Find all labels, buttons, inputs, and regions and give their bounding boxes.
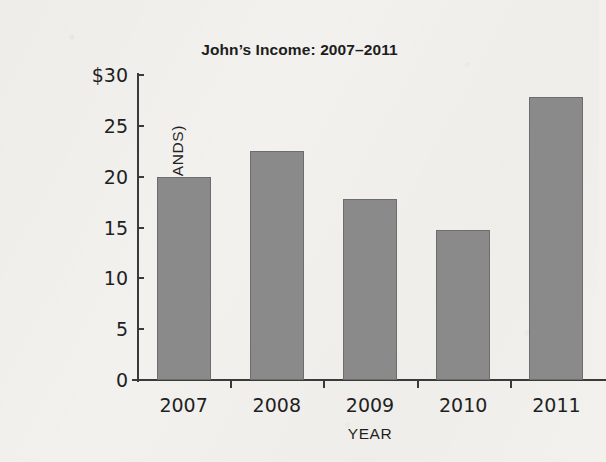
x-tick-mark xyxy=(323,380,325,388)
y-tick-label: $30 xyxy=(92,64,128,86)
bar-2008[interactable] xyxy=(250,151,304,380)
bar-2007[interactable] xyxy=(157,177,211,380)
bar-chart: John’s Income: 2007–2011 INCOME (IN THOU… xyxy=(40,16,559,446)
y-tick-label: 10 xyxy=(104,267,128,289)
y-tick-label: 15 xyxy=(104,217,128,239)
x-tick-label: 2010 xyxy=(439,394,487,416)
bar-slot: 2011 xyxy=(510,75,603,380)
x-axis-title: YEAR xyxy=(137,425,603,443)
x-tick-mark xyxy=(510,380,512,388)
bar-2011[interactable] xyxy=(529,97,583,380)
x-tick-label: 2007 xyxy=(159,394,207,416)
y-tick-label: 25 xyxy=(104,115,128,137)
chart-title: John’s Income: 2007–2011 xyxy=(40,41,559,59)
bar-2010[interactable] xyxy=(436,230,490,380)
bar-slot: 2007 xyxy=(137,75,230,380)
bar-slot: 2010 xyxy=(417,75,510,380)
x-tick-label: 2008 xyxy=(253,394,301,416)
plot-area: INCOME (IN THOUSANDS) 0 5 10 15 20 25 xyxy=(137,75,603,380)
y-tick-label: 20 xyxy=(104,166,128,188)
x-tick-mark xyxy=(417,380,419,388)
bar-slot: 2008 xyxy=(230,75,323,380)
x-tick-mark xyxy=(230,380,232,388)
bar-slot: 2009 xyxy=(323,75,416,380)
x-tick-label: 2009 xyxy=(346,394,394,416)
bar-series: 2007 2008 2009 2010 2011 xyxy=(137,75,603,380)
x-tick-label: 2011 xyxy=(532,394,580,416)
y-tick-label: 0 xyxy=(116,369,128,391)
y-tick-label: 5 xyxy=(116,318,128,340)
bar-2009[interactable] xyxy=(343,199,397,380)
